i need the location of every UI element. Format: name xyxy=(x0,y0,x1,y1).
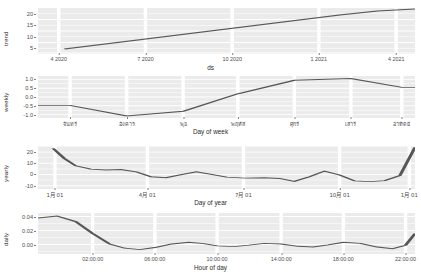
xtick: 4 2020 xyxy=(50,56,67,62)
xtick: เสาร์ xyxy=(345,120,356,128)
panel-weekly-yticks: 1.0 0.5 0.0 -0.5 -1.0 xyxy=(10,76,36,118)
panel-daily-plot-area xyxy=(38,213,415,254)
trend-svg xyxy=(38,8,415,54)
xtick: 10 2020 xyxy=(222,56,242,62)
panel-yearly-yticks: 20 10 0 -10 xyxy=(10,146,36,189)
xtick: จันทร์ xyxy=(63,120,77,128)
ytick: -1.0 xyxy=(23,112,33,118)
xtick: 4月 01 xyxy=(139,191,156,199)
xtick: 1月 01 xyxy=(401,191,418,199)
panel-weekly-plot-area xyxy=(38,76,415,118)
ytick: 10 xyxy=(27,160,33,166)
major-gridlines xyxy=(38,146,415,189)
panel-trend-plot-area xyxy=(38,8,415,54)
xtick: 7月 01 xyxy=(235,191,252,199)
yearly-svg xyxy=(38,146,415,189)
panel-yearly-xlabel: Day of year xyxy=(0,199,421,206)
panel-trend-xlabel: ds xyxy=(0,64,421,71)
panel-trend: trend 20 15 10 5 xyxy=(0,8,421,54)
xtick: 18:00:00 xyxy=(333,256,354,262)
xtick: 10月 01 xyxy=(329,191,349,199)
xtick: 7 2020 xyxy=(137,56,154,62)
panel-weekly-xlabel: Day of week xyxy=(0,128,421,135)
xtick: พุธ xyxy=(180,120,187,128)
ytick: 0.0 xyxy=(25,94,33,100)
panel-trend-ylabel: trend xyxy=(2,31,9,46)
xtick: ศุกร์ xyxy=(290,120,299,128)
ytick: 0.00 xyxy=(22,242,33,248)
ytick: 0.5 xyxy=(25,85,33,91)
xtick: 22:00:00 xyxy=(395,256,416,262)
daily-svg xyxy=(38,213,415,254)
panel-trend-yticks: 20 15 10 5 xyxy=(10,8,36,54)
panel-daily-xlabel: Hour of day xyxy=(0,264,421,271)
ytick: 0 xyxy=(30,171,33,177)
trend-line xyxy=(64,9,415,49)
panel-daily: daily 0.04 0.02 0.00 xyxy=(0,213,421,254)
ytick: 10 xyxy=(27,34,33,40)
xtick: 4 2021 xyxy=(388,56,405,62)
major-gridlines xyxy=(38,213,415,254)
ytick: -0.5 xyxy=(23,103,33,109)
xtick: 1 2021 xyxy=(311,56,328,62)
ytick: 0.04 xyxy=(22,214,33,220)
panel-daily-yticks: 0.04 0.02 0.00 xyxy=(10,213,36,254)
xtick: 1月 01 xyxy=(46,191,63,199)
ytick: 1.0 xyxy=(25,76,33,82)
ytick: 5 xyxy=(30,45,33,51)
xtick: พฤหัส xyxy=(231,120,245,128)
xtick: 06:00:00 xyxy=(144,256,165,262)
ytick: 20 xyxy=(27,11,33,17)
panel-daily-ylabel: daily xyxy=(2,233,9,246)
panel-yearly-ylabel: yearly xyxy=(2,165,9,182)
xtick: 02:00:00 xyxy=(82,256,103,262)
weekly-svg xyxy=(38,76,415,118)
xtick: 14:00:00 xyxy=(271,256,292,262)
minor-gridlines xyxy=(38,224,415,252)
ytick: 0.02 xyxy=(22,228,33,234)
panel-yearly-plot-area xyxy=(38,146,415,189)
xtick: อาทิตย์ xyxy=(393,120,410,128)
ytick: -10 xyxy=(25,183,33,189)
xtick: 10:00:00 xyxy=(207,256,228,262)
panel-weekly: weekly 1.0 0.5 0.0 -0.5 -1.0 xyxy=(0,76,421,118)
ytick: 15 xyxy=(27,22,33,28)
prophet-components-figure: trend 20 15 10 5 xyxy=(0,0,421,280)
major-gridlines xyxy=(38,8,415,54)
xtick: อังคาร xyxy=(119,120,135,128)
ytick: 20 xyxy=(27,149,33,155)
panel-yearly: yearly 20 10 0 -10 xyxy=(0,146,421,189)
panel-weekly-ylabel: weekly xyxy=(2,92,9,112)
